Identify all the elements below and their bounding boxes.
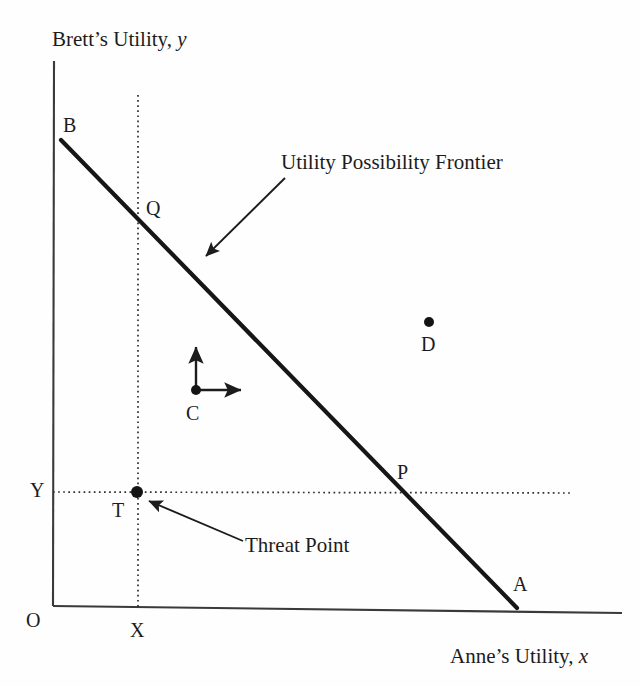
point-label-b: B: [63, 115, 76, 135]
frontier-annotation-arrow: [206, 178, 285, 256]
x-axis: [53, 606, 622, 613]
x-axis-title-text: Anne’s Utility,: [450, 644, 579, 668]
point-label-c: C: [186, 403, 199, 423]
x-axis-variable: x: [579, 644, 588, 668]
y-axis: [53, 61, 54, 606]
diagram-canvas: [0, 0, 641, 686]
point-d-dot: [424, 317, 434, 327]
point-c-dot: [191, 385, 201, 395]
point-label-t: T: [112, 500, 124, 520]
point-label-p: P: [397, 462, 408, 482]
threat-y-dotted-line: [53, 492, 570, 493]
threat-point-annotation-label: Threat Point: [245, 535, 349, 556]
point-label-q: Q: [146, 198, 160, 218]
x-axis-title: Anne’s Utility, x: [450, 646, 588, 667]
point-label-a: A: [513, 574, 527, 594]
y-tick-label: Y: [30, 480, 44, 500]
y-axis-title-text: Brett’s Utility,: [52, 27, 177, 51]
frontier-annotation-label: Utility Possibility Frontier: [281, 152, 503, 173]
x-tick-label: X: [130, 620, 144, 640]
y-axis-title: Brett’s Utility, y: [52, 29, 187, 50]
point-t-dot: [131, 486, 143, 498]
utility-possibility-frontier-figure: Brett’s Utility, y Anne’s Utility, x O X…: [0, 0, 641, 686]
y-axis-variable: y: [177, 27, 186, 51]
point-label-d: D: [421, 334, 435, 354]
threat-point-annotation-arrow: [149, 501, 243, 541]
origin-label: O: [26, 610, 40, 630]
